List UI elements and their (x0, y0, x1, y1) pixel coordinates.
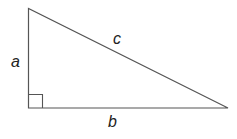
right-triangle-diagram: a c b (0, 0, 237, 139)
right-angle-marker (29, 95, 43, 109)
label-side-c: c (113, 30, 121, 47)
label-side-a: a (11, 53, 20, 70)
label-side-b: b (108, 113, 117, 130)
triangle-outline (29, 9, 229, 109)
